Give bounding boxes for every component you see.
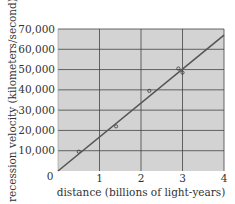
- x-axis-label: distance (billions of light-years): [57, 186, 226, 198]
- y-tick-label: 50,000: [18, 63, 55, 75]
- y-tick-label: 10,000: [18, 144, 55, 156]
- x-tick-label: 1: [96, 172, 103, 184]
- x-axis-ticks: 1234: [96, 172, 228, 184]
- scatter-chart: 10,00020,00030,00040,00050,00060,00070,0…: [0, 0, 235, 204]
- y-tick-label: 30,000: [18, 104, 55, 116]
- x-tick-label: 2: [138, 172, 145, 184]
- y-tick-label: 70,000: [18, 23, 55, 35]
- y-tick-label: 40,000: [18, 83, 55, 95]
- y-axis-label: recession velocity (kilometers/second): [6, 0, 18, 202]
- x-tick-label: 4: [221, 172, 228, 184]
- y-axis-ticks: 10,00020,00030,00040,00050,00060,00070,0…: [18, 23, 55, 157]
- x-tick-label: 3: [179, 172, 186, 184]
- origin-label: 0: [47, 170, 54, 182]
- y-tick-label: 20,000: [18, 124, 55, 136]
- y-tick-label: 60,000: [18, 43, 55, 55]
